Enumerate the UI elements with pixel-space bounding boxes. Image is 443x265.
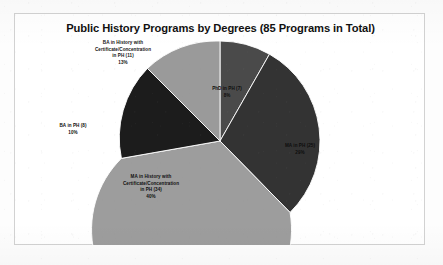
pie-label-percent: 13%	[63, 60, 183, 67]
pie-chart-plot-area: BA in History with Certificate/Concentra…	[15, 38, 426, 245]
pie-label-phd-in-ph: PhD in PH (7) 8%	[187, 86, 267, 99]
pie-label-percent: 40%	[87, 194, 215, 201]
pie-chart-svg	[15, 38, 426, 245]
pie-label-ba-in-ph: BA in PH (8) 10%	[33, 123, 113, 136]
pie-label-percent: 10%	[33, 130, 113, 137]
pie-label-ba-in-history-with-certificate: BA in History with Certificate/Concentra…	[63, 40, 183, 66]
pie-label-percent: 8%	[187, 93, 267, 100]
scanned-page: Public History Programs by Degrees (85 P…	[0, 0, 443, 265]
chart-title: Public History Programs by Degrees (85 P…	[15, 22, 426, 34]
chart-frame: Public History Programs by Degrees (85 P…	[14, 13, 425, 245]
pie-label-ma-in-ph: MA in PH (25) 29%	[265, 143, 335, 156]
pie-label-ma-in-history-with-certificate: MA in History with Certificate/Concentra…	[87, 174, 215, 200]
pie-label-percent: 29%	[265, 150, 335, 157]
